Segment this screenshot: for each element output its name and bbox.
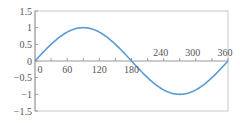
y-tick-label: −0.5 (14, 72, 32, 83)
x-tick-label: 360 (218, 47, 233, 58)
x-tick-label: 0 (38, 64, 43, 75)
x-tick-label: 240 (153, 47, 168, 58)
x-tick-label: 180 (124, 64, 139, 75)
sine-chart: 060120180240300360 1.510.50−0.5−1−1.5 (0, 0, 240, 123)
y-tick-label: 0 (27, 56, 32, 67)
y-tick-label: −1 (21, 89, 32, 100)
x-tick-label: 300 (185, 47, 200, 58)
y-tick-labels: 1.510.50−0.5−1−1.5 (14, 6, 32, 117)
y-tick-label: −1.5 (14, 106, 32, 117)
y-tick-label: 1.5 (20, 6, 33, 17)
y-tick-label: 1 (27, 22, 32, 33)
y-tick-label: 0.5 (20, 39, 33, 50)
x-tick-label: 60 (62, 64, 72, 75)
x-tick-label: 120 (92, 64, 107, 75)
